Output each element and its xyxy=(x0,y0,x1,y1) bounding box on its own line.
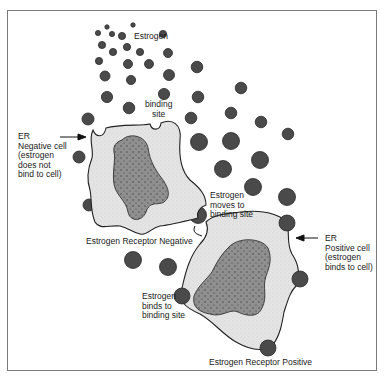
er-negative-cell-label: ER Negative cell (estrogen does not bind… xyxy=(18,132,67,180)
er-negative-cell xyxy=(88,121,206,234)
estrogen-label: Estrogen xyxy=(134,32,168,42)
er-positive-cell-label: ER Positive cell (estrogen binds to cell… xyxy=(325,234,373,272)
er-positive-cell xyxy=(174,211,308,356)
moves-to-binding-site-label: Estrogen moves to binding site xyxy=(210,191,253,220)
estrogen-receptor-diagram xyxy=(0,0,385,379)
er-positive-caption: Estrogen Receptor Positive xyxy=(209,358,312,368)
er-negative-caption: Estrogen Receptor Negative xyxy=(86,237,193,247)
binding-site-label: binding site xyxy=(145,100,172,119)
binds-to-binding-site-label: Estrogen binds to binding site xyxy=(142,292,185,321)
